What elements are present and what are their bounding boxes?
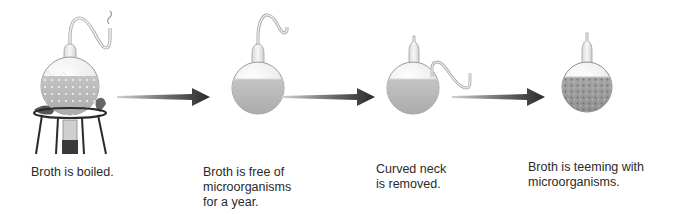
boiling-flask-illustration (34, 11, 112, 154)
clear-broth (230, 79, 286, 119)
caption-line: Broth is free of (203, 165, 291, 180)
clear-broth (385, 79, 441, 119)
steam-icon (108, 11, 112, 24)
caption-step-1: Broth is boiled. (31, 165, 114, 180)
caption-step-2: Broth is free of microorganisms for a ye… (203, 165, 291, 210)
swan-neck-highlight (70, 18, 110, 48)
caption-line: Broth is boiled. (31, 165, 114, 180)
flask-stub-neck-icon (409, 36, 419, 66)
arrow-step1-to-step2 (117, 88, 210, 106)
swan-neck-icon (258, 15, 287, 48)
caption-line: microorganisms. (528, 175, 644, 190)
diagram-stage: Broth is boiled. Broth is free of microo… (0, 0, 680, 214)
caption-line: for a year. (203, 195, 291, 210)
caption-line: Curved neck (376, 162, 446, 177)
caption-line: is removed. (376, 177, 446, 192)
flask-stub-neck-icon (582, 33, 592, 65)
neck-removed-flask-illustration (385, 36, 470, 119)
arrow-step3-to-step4 (452, 88, 545, 106)
sterile-flask-illustration (230, 15, 287, 119)
bunsen-burner-icon (62, 120, 78, 154)
caption-step-3: Curved neck is removed. (376, 162, 446, 192)
swan-neck-icon (70, 18, 110, 48)
caption-line: Broth is teeming with (528, 160, 644, 175)
arrow-step2-to-step3 (282, 88, 375, 106)
contaminated-flask-illustration (560, 33, 616, 117)
caption-line: microorganisms (203, 180, 291, 195)
caption-step-4: Broth is teeming with microorganisms. (528, 160, 644, 190)
contaminated-broth (560, 77, 616, 117)
